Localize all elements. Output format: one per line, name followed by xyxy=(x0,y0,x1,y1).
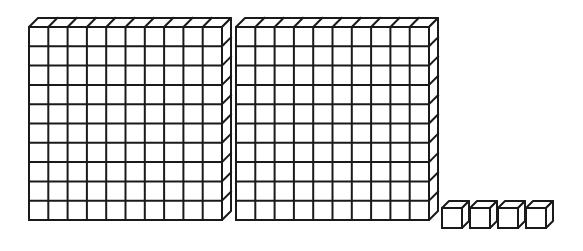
unit-cube-1 xyxy=(442,201,469,228)
unit-cube-4 xyxy=(526,201,553,228)
base-ten-blocks-diagram xyxy=(0,0,583,251)
unit-cube-2 xyxy=(470,201,497,228)
blocks-canvas xyxy=(0,0,583,251)
unit-cube-3 xyxy=(498,201,525,228)
hundred-flat-1 xyxy=(29,18,231,220)
hundred-flat-2 xyxy=(236,18,438,220)
